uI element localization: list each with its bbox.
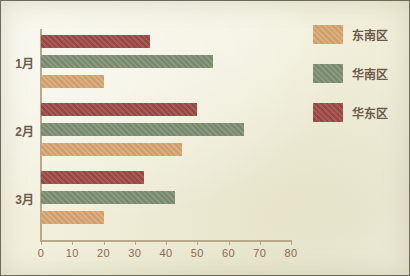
x-tick-mark bbox=[104, 240, 105, 245]
legend-label: 华南区 bbox=[352, 65, 388, 82]
x-tick-mark bbox=[197, 240, 198, 245]
bar-华东区-3月 bbox=[41, 171, 144, 184]
bar-华南区-3月 bbox=[41, 191, 175, 204]
x-tick-mark bbox=[229, 240, 230, 245]
legend-swatch bbox=[313, 103, 343, 122]
bar-东南区-3月 bbox=[41, 211, 104, 224]
category-label: 1月 bbox=[15, 53, 34, 70]
x-tick-mark bbox=[291, 240, 292, 245]
legend-swatch bbox=[313, 64, 343, 83]
bar-华东区-1月 bbox=[41, 35, 150, 48]
bar-华南区-1月 bbox=[41, 55, 213, 68]
legend-label: 华东区 bbox=[352, 104, 388, 121]
x-tick-label: 20 bbox=[97, 247, 110, 259]
plot-area: 01020304050607080 1月2月3月 bbox=[41, 29, 291, 241]
bar-东南区-2月 bbox=[41, 143, 182, 156]
x-tick-label: 10 bbox=[66, 247, 79, 259]
bar-华东区-2月 bbox=[41, 103, 197, 116]
bar-group: 3月 bbox=[41, 171, 291, 224]
bar-东南区-1月 bbox=[41, 75, 104, 88]
x-tick-label: 50 bbox=[191, 247, 204, 259]
x-tick-label: 70 bbox=[253, 247, 266, 259]
x-tick-mark bbox=[135, 240, 136, 245]
legend-item[interactable]: 华南区 bbox=[313, 62, 401, 84]
bar-group: 2月 bbox=[41, 103, 291, 156]
chart-legend: 东南区华南区华东区 bbox=[313, 23, 401, 140]
x-tick-mark bbox=[72, 240, 73, 245]
chart-figure: 01020304050607080 1月2月3月 东南区华南区华东区 bbox=[0, 0, 410, 276]
bar-group: 1月 bbox=[41, 35, 291, 88]
x-tick-label: 0 bbox=[38, 247, 44, 259]
x-tick-label: 80 bbox=[285, 247, 298, 259]
bar-华南区-2月 bbox=[41, 123, 244, 136]
category-label: 3月 bbox=[15, 189, 34, 206]
category-label: 2月 bbox=[15, 121, 34, 138]
legend-swatch bbox=[313, 25, 343, 44]
x-tick-label: 30 bbox=[128, 247, 141, 259]
x-tick-label: 60 bbox=[222, 247, 235, 259]
x-tick-mark bbox=[41, 240, 42, 245]
legend-item[interactable]: 华东区 bbox=[313, 101, 401, 123]
x-tick-label: 40 bbox=[160, 247, 173, 259]
x-tick-mark bbox=[260, 240, 261, 245]
legend-label: 东南区 bbox=[352, 26, 388, 43]
legend-item[interactable]: 东南区 bbox=[313, 23, 401, 45]
x-tick-mark bbox=[166, 240, 167, 245]
